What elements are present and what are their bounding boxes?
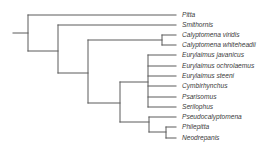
taxon-label: Calyptomena whiteheadii — [182, 41, 256, 49]
taxon-label: Calyptomena viridis — [182, 31, 240, 39]
taxon-label: Pitta — [182, 11, 195, 19]
taxon-label: Psarisomus — [182, 93, 216, 101]
taxon-label: Eurylaimus ochrolaemus — [182, 62, 254, 70]
taxon-label: Serilophus — [182, 103, 213, 111]
taxon-label: Eurylaimus javanicus — [182, 51, 244, 59]
taxon-label: Eurylaimus steeni — [182, 72, 234, 80]
taxon-label: Cymbirhynchus — [182, 82, 227, 90]
taxon-label: Pseudocalyptomena — [182, 113, 242, 121]
taxon-label: Philepitta — [182, 123, 209, 131]
taxon-label: Neodrepanis — [182, 134, 219, 142]
taxon-label: Smithornis — [182, 21, 213, 29]
